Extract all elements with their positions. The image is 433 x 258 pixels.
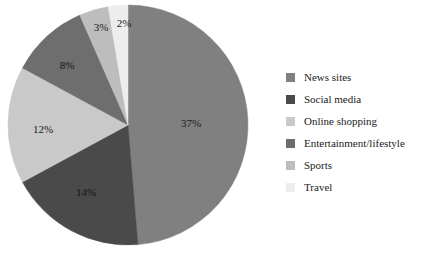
pie-chart-figure: 37%14%12%8%3%2% News sitesSocial mediaOn…	[0, 0, 433, 258]
legend-item[interactable]: Entertainment/lifestyle	[286, 132, 433, 154]
legend-item[interactable]: News sites	[286, 66, 433, 88]
pie-slice-data-label: 3%	[94, 21, 109, 33]
legend-color-swatch	[286, 117, 295, 126]
legend-item-label: Online shopping	[304, 116, 377, 127]
legend-item-label: Sports	[304, 160, 332, 171]
legend-color-swatch	[286, 183, 295, 192]
legend-color-swatch	[286, 73, 295, 82]
legend-item[interactable]: Sports	[286, 154, 433, 176]
pie-slice-data-label: 8%	[60, 59, 75, 71]
pie-slice-data-label: 2%	[117, 17, 132, 29]
pie-slice-data-label: 12%	[33, 123, 53, 135]
legend-item-label: News sites	[304, 72, 351, 83]
chart-legend: News sitesSocial mediaOnline shoppingEnt…	[286, 66, 433, 198]
legend-item-label: Social media	[304, 94, 361, 105]
legend-item[interactable]: Travel	[286, 176, 433, 198]
legend-item-label: Entertainment/lifestyle	[304, 138, 405, 149]
legend-color-swatch	[286, 139, 295, 148]
legend-color-swatch	[286, 95, 295, 104]
pie-slice-data-label: 37%	[181, 117, 201, 129]
legend-item[interactable]: Online shopping	[286, 110, 433, 132]
legend-color-swatch	[286, 161, 295, 170]
legend-item[interactable]: Social media	[286, 88, 433, 110]
legend-item-label: Travel	[304, 182, 332, 193]
pie-slice-data-label: 14%	[76, 186, 96, 198]
